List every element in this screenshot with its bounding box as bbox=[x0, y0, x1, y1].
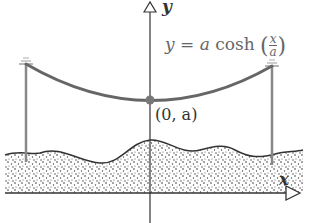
right-pole bbox=[265, 60, 279, 165]
y-axis-label: y bbox=[162, 0, 172, 16]
equation-lhs: y = a bbox=[165, 34, 210, 54]
catenary-equation: y = a cosh ( x a ) bbox=[165, 33, 286, 58]
equation-function: cosh bbox=[215, 34, 254, 54]
y-axis-arrow-icon bbox=[144, 2, 156, 12]
vertex-point bbox=[146, 96, 155, 105]
left-pole bbox=[19, 58, 33, 162]
vertex-label: (0, a) bbox=[155, 105, 197, 124]
catenary-cable bbox=[26, 64, 272, 101]
x-axis-label: x bbox=[279, 170, 289, 189]
catenary-diagram: y x y = a cosh ( x a ) (0, a) bbox=[0, 0, 309, 223]
ground-terrain bbox=[0, 130, 309, 200]
